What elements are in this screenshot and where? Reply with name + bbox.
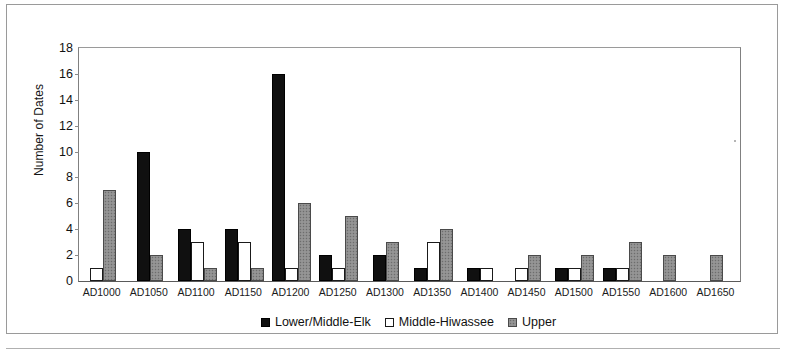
legend-entry-lower-middle-elk: Lower/Middle-Elk (261, 315, 371, 329)
y-tick-label-12: 12 (59, 119, 73, 133)
legend-entry-middle-hiwassee: Middle-Hiwassee (385, 315, 494, 329)
bar-group-AD1300 (362, 48, 409, 281)
bar-AD1050-lower-middle-elk (137, 152, 150, 281)
bar-group-AD1350 (410, 48, 457, 281)
bar-AD1350-upper (440, 229, 453, 281)
x-axis-ticks: AD1000AD1050AD1100AD1150AD1200AD1250AD13… (78, 286, 739, 298)
bar-AD1100-lower-middle-elk (178, 229, 191, 281)
bar-AD1400-middle-hiwassee (480, 268, 493, 281)
x-tick-label-AD1250: AD1250 (314, 286, 361, 298)
bar-group-AD1500 (551, 48, 598, 281)
y-tick-label-18: 18 (59, 41, 73, 55)
bar-AD1150-middle-hiwassee (238, 242, 251, 281)
bar-group-AD1600 (646, 48, 693, 281)
legend-label: Upper (522, 315, 556, 329)
bar-AD1400-lower-middle-elk (467, 268, 480, 281)
bar-group-AD1200 (268, 48, 315, 281)
legend-label: Middle-Hiwassee (399, 315, 494, 329)
x-tick-label-AD1500: AD1500 (550, 286, 597, 298)
bar-AD1150-lower-middle-elk (225, 229, 238, 281)
legend-swatch-icon-2 (508, 318, 517, 327)
y-tick-label-8: 8 (66, 170, 73, 184)
figure-frame: Number of Dates 024681012141618 AD1000AD… (6, 4, 778, 334)
page-rule (6, 348, 780, 349)
x-tick-label-AD1150: AD1150 (220, 286, 267, 298)
bar-AD1500-upper (581, 255, 594, 281)
x-tick-label-AD1050: AD1050 (125, 286, 172, 298)
bar-AD1350-lower-middle-elk (414, 268, 427, 281)
x-tick-label-AD1000: AD1000 (78, 286, 125, 298)
y-tick-label-10: 10 (59, 145, 73, 159)
bar-AD1250-upper (345, 216, 358, 281)
bar-AD1300-upper (386, 242, 399, 281)
y-axis-title: Number of Dates (32, 60, 46, 200)
bar-AD1100-upper (204, 268, 217, 281)
bar-AD1050-upper (150, 255, 163, 281)
bar-group-AD1550 (598, 48, 645, 281)
legend-swatch-icon-1 (385, 318, 394, 327)
bar-group-AD1000 (79, 48, 126, 281)
chart-legend: Lower/Middle-ElkMiddle-HiwasseeUpper (78, 315, 739, 329)
bar-AD1500-lower-middle-elk (555, 268, 568, 281)
x-tick-label-AD1100: AD1100 (172, 286, 219, 298)
bar-series-layer (79, 48, 740, 281)
bar-AD1500-middle-hiwassee (568, 268, 581, 281)
y-tick-label-16: 16 (59, 67, 73, 81)
bar-group-AD1400 (457, 48, 504, 281)
y-tick-label-4: 4 (66, 222, 73, 236)
bar-chart: Number of Dates 024681012141618 AD1000AD… (7, 5, 779, 335)
bar-AD1200-lower-middle-elk (272, 74, 285, 281)
bar-group-AD1050 (126, 48, 173, 281)
legend-entry-upper: Upper (508, 315, 556, 329)
x-tick-label-AD1300: AD1300 (361, 286, 408, 298)
bar-AD1550-lower-middle-elk (603, 268, 616, 281)
bar-AD1650-upper (710, 255, 723, 281)
bar-group-AD1650 (693, 48, 740, 281)
bar-group-AD1100 (173, 48, 220, 281)
bar-AD1300-lower-middle-elk (373, 255, 386, 281)
bar-group-AD1150 (221, 48, 268, 281)
bar-AD1000-upper (103, 190, 116, 281)
bar-AD1450-middle-hiwassee (515, 268, 528, 281)
plot-area: 024681012141618 (78, 47, 741, 282)
x-tick-label-AD1650: AD1650 (692, 286, 739, 298)
bar-AD1550-upper (629, 242, 642, 281)
y-tick-label-0: 0 (66, 274, 73, 288)
bar-AD1450-upper (528, 255, 541, 281)
bar-AD1200-upper (298, 203, 311, 281)
bar-AD1600-upper (663, 255, 676, 281)
bar-AD1250-lower-middle-elk (319, 255, 332, 281)
x-tick-label-AD1550: AD1550 (597, 286, 644, 298)
bar-AD1350-middle-hiwassee (427, 242, 440, 281)
legend-label: Lower/Middle-Elk (275, 315, 371, 329)
bar-group-AD1450 (504, 48, 551, 281)
bar-AD1200-middle-hiwassee (285, 268, 298, 281)
bar-AD1150-upper (251, 268, 264, 281)
bar-AD1250-middle-hiwassee (332, 268, 345, 281)
y-tick-label-6: 6 (66, 196, 73, 210)
x-tick-label-AD1600: AD1600 (645, 286, 692, 298)
x-tick-label-AD1450: AD1450 (503, 286, 550, 298)
bar-AD1100-middle-hiwassee (191, 242, 204, 281)
bar-AD1550-middle-hiwassee (616, 268, 629, 281)
x-tick-label-AD1200: AD1200 (267, 286, 314, 298)
y-tick-label-14: 14 (59, 93, 73, 107)
bar-group-AD1250 (315, 48, 362, 281)
legend-swatch-icon-0 (261, 318, 270, 327)
x-tick-label-AD1350: AD1350 (409, 286, 456, 298)
scan-speck (734, 140, 736, 142)
bar-AD1000-middle-hiwassee (90, 268, 103, 281)
y-tick-label-2: 2 (66, 248, 73, 262)
x-tick-label-AD1400: AD1400 (456, 286, 503, 298)
